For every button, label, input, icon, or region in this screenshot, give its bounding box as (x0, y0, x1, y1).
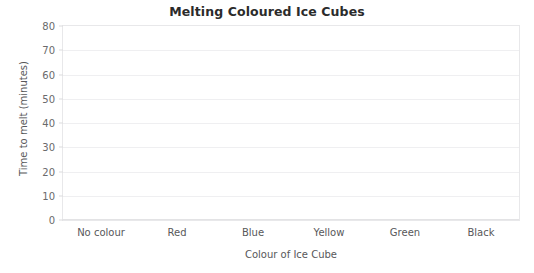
gridline-40 (63, 123, 519, 124)
x-tick-label-yellow: Yellow (314, 227, 345, 238)
y-tick-label-30: 30 (3, 142, 63, 153)
x-tick-label-no-colour: No colour (77, 227, 125, 238)
y-tick-label-0: 0 (3, 215, 63, 226)
y-tick-label-40: 40 (3, 118, 63, 129)
x-tick-label-black: Black (467, 227, 494, 238)
x-axis-title: Colour of Ice Cube (62, 249, 520, 260)
y-tick-label-50: 50 (3, 93, 63, 104)
gridline-0 (63, 219, 519, 220)
y-tick-label-70: 70 (3, 45, 63, 56)
gridline-70 (63, 50, 519, 51)
plot-area: 01020304050607080 No colourRedBlueYellow… (62, 25, 520, 221)
gridline-50 (63, 99, 519, 100)
chart-title: Melting Coloured Ice Cubes (0, 4, 534, 19)
gridline-20 (63, 172, 519, 173)
chart-container: Melting Coloured Ice Cubes Time to melt … (0, 0, 534, 273)
y-tick-label-60: 60 (3, 69, 63, 80)
x-tick-label-blue: Blue (242, 227, 264, 238)
gridline-60 (63, 75, 519, 76)
gridline-10 (63, 196, 519, 197)
y-tick-label-80: 80 (3, 21, 63, 32)
gridline-30 (63, 147, 519, 148)
y-tick-label-10: 10 (3, 190, 63, 201)
x-tick-label-green: Green (390, 227, 420, 238)
x-tick-label-red: Red (168, 227, 187, 238)
y-tick-label-20: 20 (3, 166, 63, 177)
